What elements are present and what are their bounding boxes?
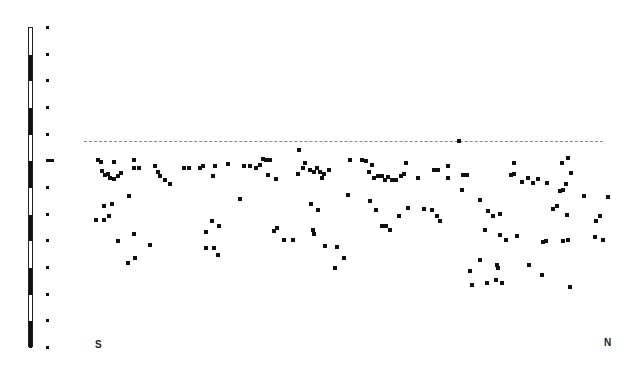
data-point [566, 238, 570, 242]
data-point [296, 172, 300, 176]
data-point [102, 218, 106, 222]
data-point [323, 244, 327, 248]
data-point [520, 180, 524, 184]
data-point [555, 204, 559, 208]
data-point [107, 214, 111, 218]
data-point [406, 206, 410, 210]
data-point [465, 173, 469, 177]
data-point [346, 193, 350, 197]
scale-tick [46, 266, 49, 269]
data-point [132, 166, 136, 170]
data-point [132, 158, 136, 162]
data-point [402, 172, 406, 176]
data-point [582, 194, 586, 198]
data-point [540, 273, 544, 277]
data-point [370, 163, 374, 167]
data-point [494, 278, 498, 282]
data-point [211, 174, 215, 178]
surface-dashed-line [84, 141, 603, 142]
scale-segment [29, 295, 32, 322]
data-point [153, 164, 157, 168]
data-point [368, 199, 372, 203]
data-point [397, 214, 401, 218]
data-point [515, 234, 519, 238]
data-point [133, 256, 137, 260]
scale-tick [46, 133, 49, 136]
data-point [316, 208, 320, 212]
data-point [258, 163, 262, 167]
scale-tick [46, 26, 49, 29]
data-point [212, 246, 216, 250]
data-point [99, 160, 103, 164]
scale-segment [29, 28, 32, 55]
data-point [478, 258, 482, 262]
data-point [119, 171, 123, 175]
data-point [266, 173, 270, 177]
data-point [446, 176, 450, 180]
data-point [110, 202, 114, 206]
data-point [367, 170, 371, 174]
scale-segment [29, 81, 32, 108]
data-point [312, 232, 316, 236]
data-point [593, 235, 597, 239]
data-point [217, 224, 221, 228]
data-point [216, 253, 220, 257]
scale-segment [29, 161, 32, 188]
data-point [565, 213, 569, 217]
data-point [132, 232, 136, 236]
scale-segment [29, 135, 32, 162]
data-point [498, 212, 502, 216]
data-point [498, 233, 502, 237]
scale-tick [46, 79, 49, 82]
vertical-scale-bar [28, 27, 33, 347]
data-point [272, 229, 276, 233]
scale-tick [46, 239, 49, 242]
data-point [248, 164, 252, 168]
data-point [569, 171, 573, 175]
data-point [204, 230, 208, 234]
data-point [491, 214, 495, 218]
data-point [601, 238, 605, 242]
data-point [457, 139, 461, 143]
data-point [204, 246, 208, 250]
north-label: N [604, 337, 611, 348]
scale-tick [46, 213, 49, 216]
data-point [404, 161, 408, 165]
scale-segment [29, 241, 32, 268]
data-point [606, 195, 610, 199]
data-point [158, 174, 162, 178]
data-point [291, 238, 295, 242]
scale-tick [46, 186, 49, 189]
data-point [566, 156, 570, 160]
data-point [430, 208, 434, 212]
data-point [564, 182, 568, 186]
data-point [333, 266, 337, 270]
data-point [226, 162, 230, 166]
data-point [483, 228, 487, 232]
data-point [422, 207, 426, 211]
data-point [512, 172, 516, 176]
scale-segment [29, 188, 32, 215]
data-point [544, 239, 548, 243]
data-point [561, 188, 565, 192]
data-point [500, 281, 504, 285]
data-point [568, 285, 572, 289]
data-point [594, 219, 598, 223]
data-point [527, 263, 531, 267]
data-point [335, 245, 339, 249]
data-point [416, 176, 420, 180]
data-point [163, 178, 167, 182]
data-point [238, 197, 242, 201]
section-profile-figure: S N [0, 0, 637, 368]
data-point [112, 160, 116, 164]
scale-tick [46, 319, 49, 322]
data-point [446, 164, 450, 168]
data-point [545, 181, 549, 185]
data-point [560, 161, 564, 165]
data-point [182, 166, 186, 170]
data-point [561, 239, 565, 243]
data-point [512, 161, 516, 165]
data-point [536, 177, 540, 181]
scale-segment [29, 268, 32, 295]
scale-segment [29, 215, 32, 242]
